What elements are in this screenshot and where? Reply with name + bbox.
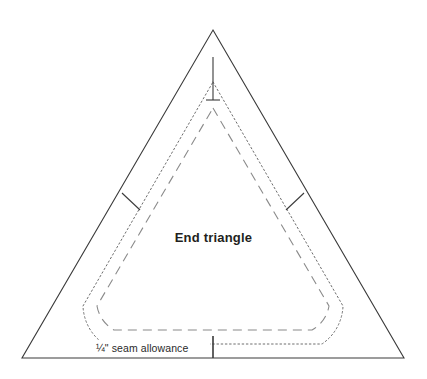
seam-allowance-cut-line [83, 82, 343, 344]
piece-name-label: End triangle [0, 230, 427, 245]
left-edge-notch-tick [122, 193, 140, 210]
seam-allowance-label: ¼" seam allowance [96, 342, 188, 354]
right-edge-notch-tick [286, 193, 304, 210]
pattern-drawing [0, 0, 427, 379]
stitch-line [97, 108, 329, 330]
end-triangle-pattern-figure: End triangle ¼" seam allowance [0, 0, 427, 379]
